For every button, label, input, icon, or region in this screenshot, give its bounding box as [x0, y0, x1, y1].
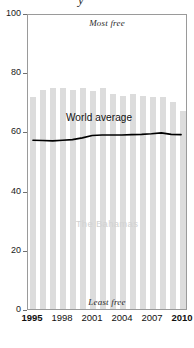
y-axis-tick-label: 60: [11, 126, 21, 136]
x-axis-tick-label: 1995: [21, 312, 42, 323]
annotation-world-average: World average: [66, 112, 132, 123]
x-axis-tick-label: 2001: [81, 312, 102, 323]
x-axis-tick-label: 1998: [51, 312, 72, 323]
y-axis-tick-label: 40: [11, 186, 21, 196]
y-axis-tick-label: 80: [11, 67, 21, 77]
x-axis: 199519982001200420072010: [27, 312, 187, 332]
y-axis-tick-label: 20: [11, 245, 21, 255]
x-axis-tick-label: 2007: [141, 312, 162, 323]
annotation-least-free: Least free: [28, 297, 186, 307]
plot-area: Most free Least free The Bahamas World a…: [27, 14, 187, 310]
y-axis: 100806040200: [0, 14, 27, 310]
annotation-most-free: Most free: [28, 18, 186, 28]
plot-annotations: Most free Least free The Bahamas World a…: [28, 15, 186, 309]
title-descender-artifact: y: [78, 0, 84, 5]
y-axis-tick-label: 100: [6, 8, 21, 18]
annotation-series-name: The Bahamas: [28, 218, 186, 229]
chart-container: y 100806040200 Most free Least free The …: [0, 0, 194, 348]
y-axis-tick-label: 0: [16, 304, 21, 314]
y-axis-tick-mark: [23, 310, 27, 311]
x-axis-tick-label: 2010: [171, 312, 192, 323]
x-axis-tick-label: 2004: [111, 312, 132, 323]
